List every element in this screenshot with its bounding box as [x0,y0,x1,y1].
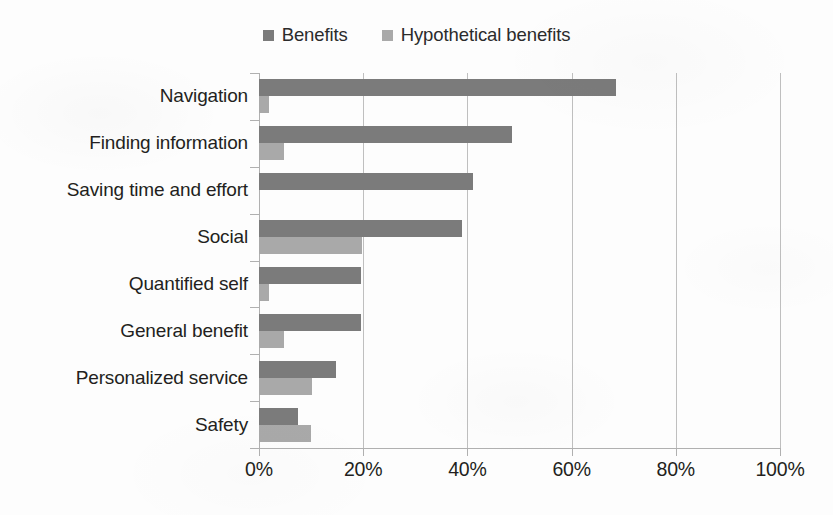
bar-benefits-quantified-self [259,267,361,284]
x-axis-tick-label: 20% [344,458,382,481]
y-axis-label-personalized-service: Personalized service [0,354,248,401]
x-axis-tick [780,448,781,456]
y-axis-tick [250,214,259,215]
bar-row [259,120,780,167]
bar-row [259,214,780,261]
gridline-100% [780,73,781,448]
bar-hypothetical-safety [259,425,311,442]
bar-hypothetical-quantified-self [259,284,269,301]
x-axis-tick-label: 0% [245,458,273,481]
legend-swatch-benefits [263,30,274,41]
bar-hypothetical-finding-information [259,143,284,160]
bar-benefits-navigation [259,79,616,96]
bar-row [259,73,780,120]
bar-chart: Benefits Hypothetical benefits Navigatio… [0,0,833,515]
legend-item-hypothetical-benefits: Hypothetical benefits [382,26,571,45]
bar-benefits-social [259,220,462,237]
y-axis-category-labels: NavigationFinding informationSaving time… [0,73,248,448]
bar-benefits-personalized-service [259,361,336,378]
x-axis-tick-labels: 0%20%40%60%80%100% [259,458,780,488]
y-axis-ticks [250,73,259,448]
bar-row [259,401,780,448]
y-axis-tick [250,120,259,121]
x-axis-tick [363,448,364,456]
bar-hypothetical-social [259,237,362,254]
bar-row [259,354,780,401]
legend-label-hypothetical-benefits: Hypothetical benefits [401,26,571,45]
x-axis-tick-label: 40% [448,458,486,481]
x-axis-tick-label: 100% [755,458,804,481]
bar-hypothetical-general-benefit [259,331,284,348]
y-axis-tick [250,73,259,74]
x-axis-tick [676,448,677,456]
y-axis-label-quantified-self: Quantified self [0,261,248,308]
bar-benefits-saving-time-and-effort [259,173,473,190]
x-axis-ticks [259,448,780,456]
x-axis-tick [572,448,573,456]
bar-hypothetical-navigation [259,96,269,113]
y-axis-tick [250,307,259,308]
y-axis-tick [250,401,259,402]
bar-row [259,307,780,354]
bar-row [259,261,780,308]
y-axis-label-navigation: Navigation [0,73,248,120]
bar-rows [259,73,780,448]
bar-benefits-safety [259,408,298,425]
y-axis-label-general-benefit: General benefit [0,307,248,354]
x-axis-tick [259,448,260,456]
y-axis-label-finding-information: Finding information [0,120,248,167]
bar-hypothetical-personalized-service [259,378,312,395]
y-axis-tick [250,354,259,355]
y-axis-label-safety: Safety [0,401,248,448]
y-axis-tick [250,261,259,262]
y-axis-label-social: Social [0,214,248,261]
legend-item-benefits: Benefits [263,26,348,45]
legend-label-benefits: Benefits [282,26,348,45]
legend-swatch-hypothetical-benefits [382,30,393,41]
chart-legend: Benefits Hypothetical benefits [0,26,833,45]
bar-benefits-general-benefit [259,314,361,331]
x-axis-tick-label: 60% [552,458,590,481]
bar-row [259,167,780,214]
bar-benefits-finding-information [259,126,512,143]
y-axis-label-saving-time-and-effort: Saving time and effort [0,167,248,214]
x-axis-tick-label: 80% [657,458,695,481]
plot-area [259,73,780,448]
y-axis-tick [250,167,259,168]
x-axis-tick [467,448,468,456]
